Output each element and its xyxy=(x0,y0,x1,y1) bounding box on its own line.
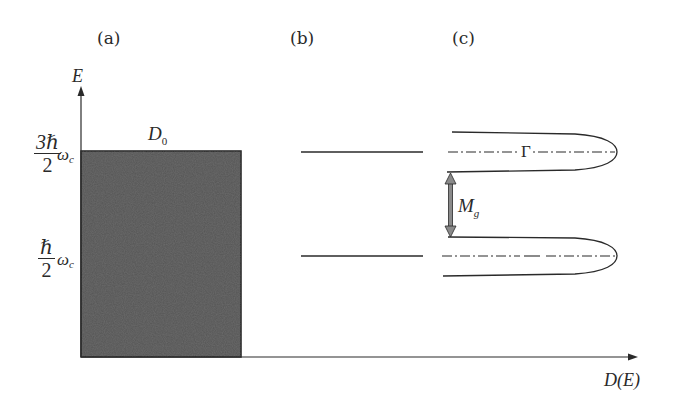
tick-numerator: ℏ xyxy=(38,237,55,259)
axis-arrow-right-icon xyxy=(628,354,638,361)
discrete-landau-levels xyxy=(301,152,423,256)
axis-arrow-up-icon xyxy=(78,86,85,96)
panel-label-a: (a) xyxy=(97,30,120,47)
d0-label: D0 xyxy=(148,124,167,147)
omega-symbol: ω xyxy=(57,145,69,164)
mg-main: M xyxy=(458,195,474,216)
omega-symbol: ω xyxy=(57,250,69,269)
mg-gap-label: Mg xyxy=(458,196,479,219)
gap-double-arrow-icon xyxy=(445,173,456,237)
constant-dos-block xyxy=(81,151,241,357)
diagram-graphics xyxy=(0,0,678,412)
tick-omega-c-lower: ωc xyxy=(57,251,74,270)
panel-label-b: (b) xyxy=(290,30,314,47)
tick-denominator: 2 xyxy=(38,259,55,280)
broadened-level-upper xyxy=(447,132,617,172)
omega-subscript: c xyxy=(69,153,74,165)
gamma-broadening-label: Γ xyxy=(520,143,532,160)
omega-subscript: c xyxy=(69,258,74,270)
landau-level-dos-diagram: (a) (b) (c) E D(E) 3ℏ 2 ωc ℏ 2 ωc D0 Γ M… xyxy=(0,0,678,412)
dos-axis-label: D(E) xyxy=(604,371,640,389)
broadened-level-lower xyxy=(442,237,617,276)
energy-axis-label: E xyxy=(72,67,83,85)
tick-label-hbar-over-2: ℏ 2 xyxy=(38,237,55,280)
d0-main: D xyxy=(148,123,162,144)
tick-omega-c-upper: ωc xyxy=(57,146,74,165)
mg-sub: g xyxy=(474,207,480,219)
d0-sub: 0 xyxy=(162,135,168,147)
panel-label-c: (c) xyxy=(452,30,475,47)
